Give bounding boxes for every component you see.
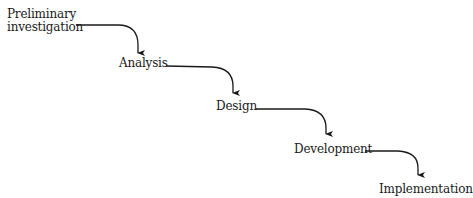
arrow-development-to-implementation	[365, 151, 418, 175]
arrow-preliminary-to-analysis	[76, 25, 138, 53]
arrow-design-to-development	[256, 109, 326, 134]
arrow-analysis-to-design	[166, 66, 233, 93]
